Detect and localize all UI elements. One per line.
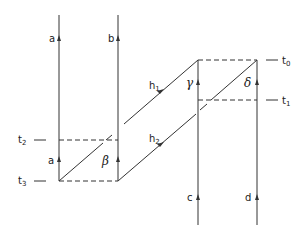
arrow-up-icon [116,35,120,41]
label-h2: h2 [149,133,160,146]
arrow-up-icon [116,156,120,162]
arrow-up-icon [255,79,259,85]
label-delta: δ [244,76,251,90]
label-c-bottom: c [187,192,193,203]
label-beta: β [101,154,109,168]
arrow-up-icon [255,194,259,200]
label-d-bottom: d [245,192,251,203]
label-t2: t2 [18,134,26,147]
label-t0: t0 [282,55,290,68]
label-h1: h1 [149,80,160,93]
label-a-top: a [49,33,55,44]
label-b-top: b [108,33,114,44]
arrow-up-icon [57,35,61,41]
label-a-lower: a [48,155,54,166]
arrow-up-icon [57,156,61,162]
label-gamma: γ [186,76,194,90]
label-t3: t3 [18,175,26,188]
arrow-up-icon [196,79,200,85]
worldline-diagram: a b a β γ δ c d h1 h2 t0 t1 t2 t3 [0,0,305,237]
label-t1: t1 [282,95,290,108]
arrow-up-icon [196,194,200,200]
diagonal-h1 [59,60,198,181]
